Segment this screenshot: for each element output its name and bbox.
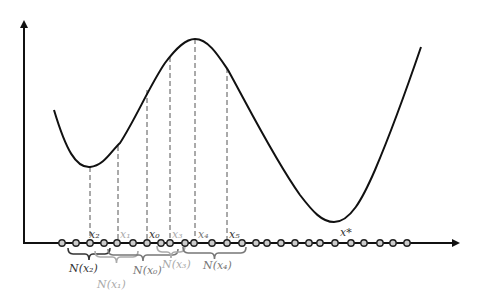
point-label: x₅ xyxy=(229,228,240,241)
neighborhood-brace xyxy=(183,247,246,259)
sample-point xyxy=(332,240,338,246)
point-label: x₃ xyxy=(172,228,183,241)
objective-function-curve xyxy=(54,39,421,222)
point-labels: x₂x₁x₀x₃x₄x₅x* xyxy=(89,226,352,241)
sample-point xyxy=(59,240,65,246)
neighborhood-labels: N(x₂)N(x₁)N(x₀)N(x₃)N(x₄) xyxy=(68,258,232,291)
sample-point xyxy=(130,240,136,246)
neighborhood-label: N(x₀) xyxy=(132,264,162,277)
neighborhood-brace xyxy=(157,246,185,258)
neighborhood-brace xyxy=(95,251,138,263)
sample-point xyxy=(239,240,245,246)
point-label: x₄ xyxy=(198,228,209,241)
sample-point xyxy=(182,240,188,246)
sample-point xyxy=(191,240,197,246)
dashed-projection-lines xyxy=(90,39,227,243)
sample-point xyxy=(317,240,323,246)
neighborhood-brace xyxy=(68,248,110,260)
sample-point xyxy=(278,240,284,246)
sample-point xyxy=(253,240,259,246)
sample-point xyxy=(292,240,298,246)
sample-point xyxy=(377,240,383,246)
sample-point xyxy=(101,240,107,246)
sample-point xyxy=(306,240,312,246)
point-label: x₁ xyxy=(120,228,131,241)
point-label: x₀ xyxy=(149,228,160,241)
neighborhood-label: N(x₁) xyxy=(96,278,126,291)
sample-point xyxy=(390,240,396,246)
sample-point xyxy=(264,240,270,246)
sample-point xyxy=(73,240,79,246)
neighborhood-search-diagram: x₂x₁x₀x₃x₄x₅x* N(x₂)N(x₁)N(x₀)N(x₃)N(x₄) xyxy=(0,0,481,305)
sample-point xyxy=(404,240,410,246)
point-label: x* xyxy=(340,226,352,239)
sample-point xyxy=(348,240,354,246)
neighborhood-label: N(x₂) xyxy=(68,262,98,275)
sample-point xyxy=(361,240,367,246)
point-label: x₂ xyxy=(89,228,100,241)
neighborhood-label: N(x₃) xyxy=(161,258,191,271)
sample-point xyxy=(209,240,215,246)
neighborhood-label: N(x₄) xyxy=(202,259,232,272)
